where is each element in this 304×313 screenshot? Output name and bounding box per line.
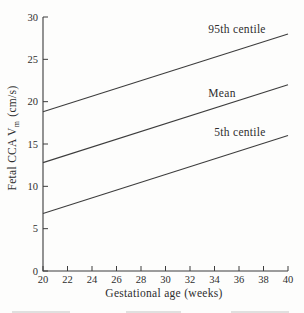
y-tick-label: 15 xyxy=(28,139,39,150)
y-axis-title-unit: (cm/s) xyxy=(6,85,18,119)
x-axis-title-text: Gestational age (weeks) xyxy=(105,287,222,299)
x-tick-label: 22 xyxy=(62,274,73,285)
line-95th-centile xyxy=(43,34,288,112)
y-axis-title-pre: Fetal CCA V xyxy=(6,127,18,190)
x-tick-label: 20 xyxy=(38,274,49,285)
line-label-5th-centile: 5th centile xyxy=(214,126,266,138)
centile-chart-figure: 0510152025302022242628303234363840 95th … xyxy=(0,0,304,313)
x-tick-label: 26 xyxy=(111,274,122,285)
y-axis-title: Fetal CCA Vm (cm/s) xyxy=(6,85,21,190)
y-tick-label: 20 xyxy=(28,96,39,107)
chart-canvas: 0510152025302022242628303234363840 xyxy=(0,0,304,313)
x-axis-title: Gestational age (weeks) xyxy=(105,287,222,299)
y-tick-label: 10 xyxy=(28,181,39,192)
x-tick-label: 34 xyxy=(209,274,220,285)
x-tick-label: 32 xyxy=(185,274,196,285)
x-tick-label: 36 xyxy=(234,274,245,285)
y-tick-label: 25 xyxy=(28,54,39,65)
x-tick-label: 24 xyxy=(87,274,98,285)
y-axis-title-subscript: m xyxy=(13,121,22,128)
x-tick-label: 40 xyxy=(283,274,294,285)
line-label-95th-centile: 95th centile xyxy=(208,23,266,35)
line-label-mean: Mean xyxy=(208,87,235,99)
x-tick-label: 28 xyxy=(136,274,147,285)
axis-spine xyxy=(43,17,288,271)
y-tick-label: 30 xyxy=(28,12,39,23)
x-tick-label: 38 xyxy=(258,274,269,285)
line-5th-centile xyxy=(43,136,288,214)
line-mean xyxy=(43,85,288,163)
x-tick-label: 30 xyxy=(160,274,171,285)
cropped-text-artifact xyxy=(0,308,304,313)
y-tick-label: 5 xyxy=(33,223,38,234)
